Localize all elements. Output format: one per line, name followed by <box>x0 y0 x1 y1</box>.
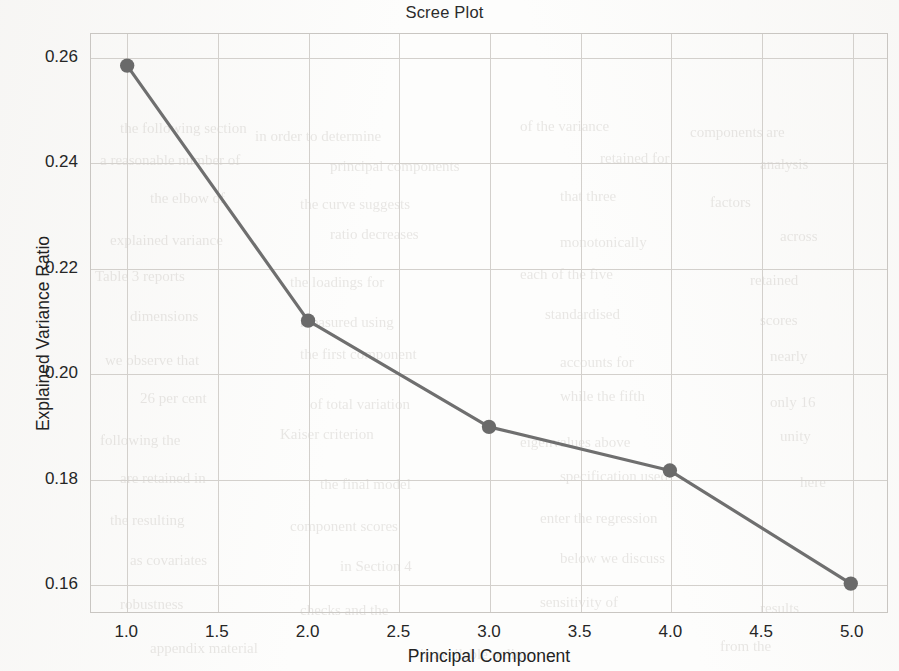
plot-area <box>90 33 888 613</box>
x-axis-tick-label: 5.0 <box>840 622 864 642</box>
data-series-line <box>91 34 887 613</box>
x-axis-tick-label: 2.5 <box>386 622 410 642</box>
data-point-marker <box>663 463 677 477</box>
x-axis-tick-label: 3.0 <box>477 622 501 642</box>
y-axis-tick-labels: 0.160.180.200.220.240.26 <box>0 33 78 613</box>
y-axis-tick-label: 0.26 <box>45 47 78 67</box>
x-axis-tick-label: 4.5 <box>749 622 773 642</box>
data-point-marker <box>120 58 134 72</box>
scree-plot-figure: the following sectionin order to determi… <box>0 0 899 671</box>
x-axis-tick-label: 3.5 <box>568 622 592 642</box>
data-point-marker <box>301 313 315 327</box>
y-axis-tick-label: 0.20 <box>45 363 78 383</box>
x-axis-tick-label: 4.0 <box>659 622 683 642</box>
y-axis-tick-label: 0.22 <box>45 258 78 278</box>
series-polyline <box>127 66 851 584</box>
chart-title: Scree Plot <box>0 3 899 22</box>
data-point-marker <box>844 576 858 590</box>
x-axis-tick-labels: 1.01.52.02.53.03.54.04.55.0 <box>90 622 888 646</box>
x-axis-tick-label: 2.0 <box>296 622 320 642</box>
data-point-marker <box>482 420 496 434</box>
y-axis-tick-label: 0.18 <box>45 469 78 489</box>
x-axis-label: Principal Component <box>90 646 888 667</box>
x-axis-tick-label: 1.0 <box>114 622 138 642</box>
x-axis-tick-label: 1.5 <box>205 622 229 642</box>
y-axis-tick-label: 0.16 <box>45 574 78 594</box>
y-axis-tick-label: 0.24 <box>45 152 78 172</box>
